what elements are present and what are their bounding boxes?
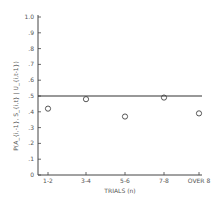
- y-tick-label: .1: [28, 155, 34, 162]
- y-axis-label: P(A_{i,-1}, S_{i,t} | U_{i,t-1}): [12, 61, 20, 151]
- data-point: [45, 106, 50, 111]
- x-axis-label: TRIALS (n): [103, 187, 135, 194]
- y-tick-label: .8: [28, 45, 34, 52]
- x-tick-label: 7-8: [159, 177, 169, 184]
- x-tick-label: OVER 8: [188, 177, 211, 184]
- x-tick-label: 1-2: [43, 177, 53, 184]
- y-tick-label: .6: [28, 76, 34, 83]
- y-tick-label: 0: [30, 171, 34, 178]
- chart-svg: 0.1.2.3.4.5.6.7.8.91.01-23-45-67-8OVER 8…: [0, 0, 215, 206]
- data-point: [122, 114, 127, 119]
- y-tick-label: .2: [28, 139, 34, 146]
- x-tick-label: 3-4: [81, 177, 91, 184]
- y-tick-label: .4: [28, 108, 34, 115]
- y-tick-label: .7: [28, 60, 34, 67]
- y-tick-label: .9: [28, 29, 34, 36]
- data-point: [196, 111, 201, 116]
- y-tick-label: 1.0: [24, 13, 34, 20]
- data-point: [83, 97, 88, 102]
- y-tick-label: .3: [28, 124, 34, 131]
- y-tick-label: .5: [28, 92, 34, 99]
- x-tick-label: 5-6: [120, 177, 130, 184]
